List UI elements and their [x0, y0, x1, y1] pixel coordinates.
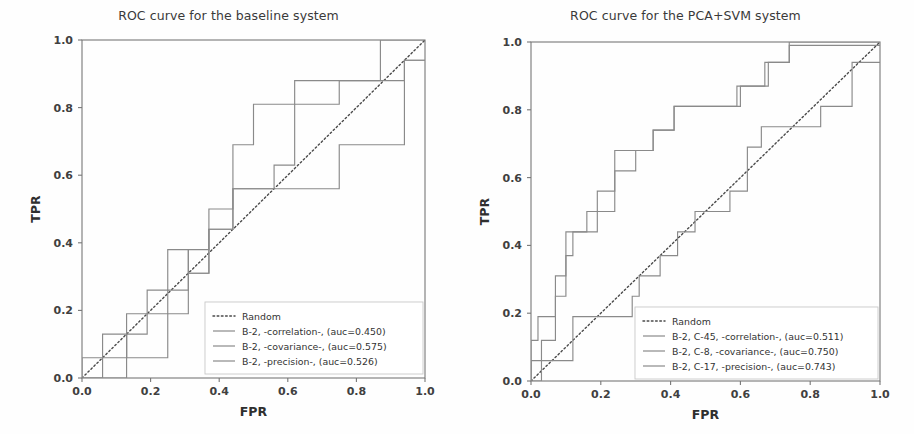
chart-svg-baseline: 0.00.20.40.60.81.00.00.20.40.60.81.0FPRT… — [0, 0, 457, 420]
x-axis-title: FPR — [692, 407, 720, 420]
x-tick-label: 0.8 — [800, 388, 820, 401]
x-tick-label: 0.4 — [209, 385, 229, 398]
y-tick-label: 0.2 — [503, 307, 523, 320]
y-tick-label: 0.8 — [54, 102, 74, 115]
legend-label: B-2, C-8, -covariance-, (auc=0.750) — [672, 346, 838, 357]
chart-title-baseline: ROC curve for the baseline system — [0, 8, 457, 23]
chart-title-pca-svm: ROC curve for the PCA+SVM system — [457, 8, 914, 23]
chart-panel-pca-svm: ROC curve for the PCA+SVM system 0.00.20… — [457, 0, 914, 434]
legend-label: B-2, -correlation-, (auc=0.450) — [242, 326, 386, 337]
legend-label: Random — [242, 311, 281, 322]
legend: RandomB-2, -correlation-, (auc=0.450)B-2… — [205, 302, 423, 374]
y-tick-label: 0.0 — [503, 375, 523, 388]
x-tick-label: 0.6 — [278, 385, 298, 398]
y-tick-label: 0.6 — [503, 172, 523, 185]
legend: RandomB-2, C-45, -correlation-, (auc=0.5… — [635, 307, 878, 379]
chart-svg-pca-svm: 0.00.20.40.60.81.00.00.20.40.60.81.0FPRT… — [457, 0, 914, 420]
x-tick-label: 0.6 — [731, 388, 751, 401]
legend-label: B-2, C-45, -correlation-, (auc=0.511) — [672, 331, 843, 342]
x-tick-label: 1.0 — [870, 388, 890, 401]
legend-label: B-2, -precision-, (auc=0.526) — [242, 356, 378, 367]
y-tick-label: 0.6 — [54, 169, 74, 182]
x-tick-label: 0.0 — [521, 388, 541, 401]
x-axis-title: FPR — [240, 404, 268, 419]
chart-panel-baseline: ROC curve for the baseline system 0.00.2… — [0, 0, 457, 434]
roc-figure: ROC curve for the baseline system 0.00.2… — [0, 0, 914, 434]
x-tick-label: 1.0 — [415, 385, 435, 398]
y-tick-label: 1.0 — [54, 34, 74, 47]
x-tick-label: 0.0 — [72, 385, 92, 398]
x-tick-label: 0.8 — [347, 385, 367, 398]
y-tick-label: 0.8 — [503, 104, 523, 117]
y-tick-label: 0.2 — [54, 304, 74, 317]
y-tick-label: 0.0 — [54, 372, 74, 385]
y-tick-label: 1.0 — [503, 36, 523, 49]
y-axis-title: TPR — [477, 197, 492, 225]
y-tick-label: 0.4 — [503, 239, 523, 252]
legend-label: B-2, -covariance-, (auc=0.575) — [242, 341, 387, 352]
y-axis-title: TPR — [28, 195, 43, 223]
x-tick-label: 0.2 — [591, 388, 611, 401]
x-tick-label: 0.4 — [661, 388, 681, 401]
legend-label: B-2, C-17, -precision-, (auc=0.743) — [672, 361, 835, 372]
y-tick-label: 0.4 — [54, 237, 74, 250]
legend-label: Random — [672, 316, 711, 327]
x-tick-label: 0.2 — [141, 385, 161, 398]
